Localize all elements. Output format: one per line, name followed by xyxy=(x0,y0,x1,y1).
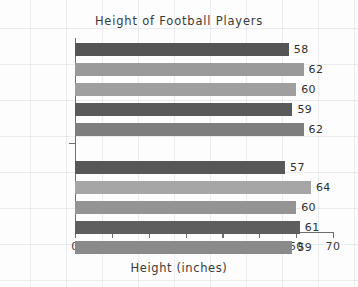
x-axis-tick-label: 70 xyxy=(326,240,341,253)
bar xyxy=(75,123,304,136)
bar-value-label: 59 xyxy=(297,241,312,254)
bar-row: 62 xyxy=(75,63,304,76)
bar xyxy=(75,43,289,56)
bar-value-label: 58 xyxy=(294,43,309,56)
bar-row: 59 xyxy=(75,241,292,254)
bar-row: 61 xyxy=(75,221,300,234)
bar-value-label: 62 xyxy=(309,63,324,76)
bar-row: 60 xyxy=(75,83,296,96)
bar-row: 60 xyxy=(75,201,296,214)
bar-row: 57 xyxy=(75,161,285,174)
bar xyxy=(75,103,292,116)
bar xyxy=(75,241,292,254)
bar-row: 59 xyxy=(75,103,292,116)
bar-value-label: 61 xyxy=(305,221,320,234)
bar-value-label: 60 xyxy=(301,201,316,214)
bar xyxy=(75,201,296,214)
bar xyxy=(75,161,285,174)
bar-value-label: 62 xyxy=(309,123,324,136)
bar-value-label: 59 xyxy=(297,103,312,116)
category-divider-tick xyxy=(69,143,76,144)
x-axis-title: Height (inches) xyxy=(0,261,358,275)
bar xyxy=(75,181,311,194)
bar-row: 64 xyxy=(75,181,311,194)
x-axis-tick xyxy=(333,232,334,238)
bar xyxy=(75,83,296,96)
bar-row: 58 xyxy=(75,43,289,56)
bar-value-label: 64 xyxy=(316,181,331,194)
bar-row: 62 xyxy=(75,123,304,136)
bar xyxy=(75,63,304,76)
bar-value-label: 57 xyxy=(290,161,305,174)
bar xyxy=(75,221,300,234)
bar-value-label: 60 xyxy=(301,83,316,96)
chart-title: Height of Football Players xyxy=(0,14,358,28)
bar-chart-figure: Height of Football Players Height (inche… xyxy=(0,0,358,287)
